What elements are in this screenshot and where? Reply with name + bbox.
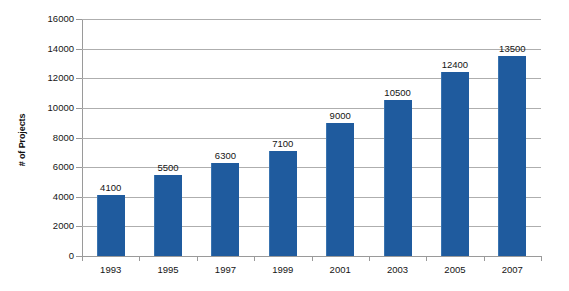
x-tick-label: 2001	[310, 264, 370, 275]
y-tick-mark	[76, 49, 82, 50]
bar-value-label: 9000	[310, 110, 370, 121]
x-tick-mark	[541, 256, 542, 261]
y-tick-label: 6000	[0, 161, 74, 172]
x-tick-label: 2007	[482, 264, 542, 275]
gridline	[82, 197, 541, 198]
x-tick-label: 1997	[195, 264, 255, 275]
x-tick-mark	[82, 256, 83, 261]
y-tick-mark	[76, 108, 82, 109]
x-tick-label: 1993	[81, 264, 141, 275]
y-tick-label: 16000	[0, 13, 74, 24]
bar-value-label: 5500	[138, 162, 198, 173]
y-tick-label: 10000	[0, 102, 74, 113]
x-tick-label: 2005	[425, 264, 485, 275]
bar	[384, 100, 412, 256]
bar	[498, 56, 526, 256]
bar	[441, 72, 469, 256]
bar-value-label: 6300	[195, 150, 255, 161]
bar-value-label: 7100	[253, 138, 313, 149]
x-tick-mark	[197, 256, 198, 261]
gridline	[82, 49, 541, 50]
x-tick-mark	[484, 256, 485, 261]
gridline	[82, 226, 541, 227]
y-tick-label: 14000	[0, 43, 74, 54]
bar	[154, 175, 182, 256]
y-tick-mark	[76, 19, 82, 20]
bar	[326, 123, 354, 256]
bar	[211, 163, 239, 256]
bar	[269, 151, 297, 256]
y-tick-mark	[76, 167, 82, 168]
y-tick-label: 2000	[0, 220, 74, 231]
x-tick-mark	[426, 256, 427, 261]
y-tick-label: 12000	[0, 72, 74, 83]
gridline	[82, 78, 541, 79]
bar-value-label: 4100	[81, 182, 141, 193]
y-tick-label: 4000	[0, 191, 74, 202]
x-tick-mark	[254, 256, 255, 261]
x-tick-label: 1995	[138, 264, 198, 275]
y-tick-label: 0	[0, 250, 74, 261]
bar-value-label: 10500	[368, 87, 428, 98]
gridline	[82, 19, 541, 20]
y-tick-mark	[76, 197, 82, 198]
x-tick-label: 2003	[368, 264, 428, 275]
bar-chart: # of Projects 02000400060008000100001200…	[0, 0, 569, 291]
bar-value-label: 12400	[425, 59, 485, 70]
x-tick-mark	[312, 256, 313, 261]
bar-value-label: 13500	[482, 43, 542, 54]
y-tick-mark	[76, 78, 82, 79]
y-tick-label: 8000	[0, 132, 74, 143]
y-tick-mark	[76, 226, 82, 227]
x-tick-mark	[139, 256, 140, 261]
x-tick-mark	[369, 256, 370, 261]
bar	[97, 195, 125, 256]
y-tick-mark	[76, 138, 82, 139]
x-tick-label: 1999	[253, 264, 313, 275]
